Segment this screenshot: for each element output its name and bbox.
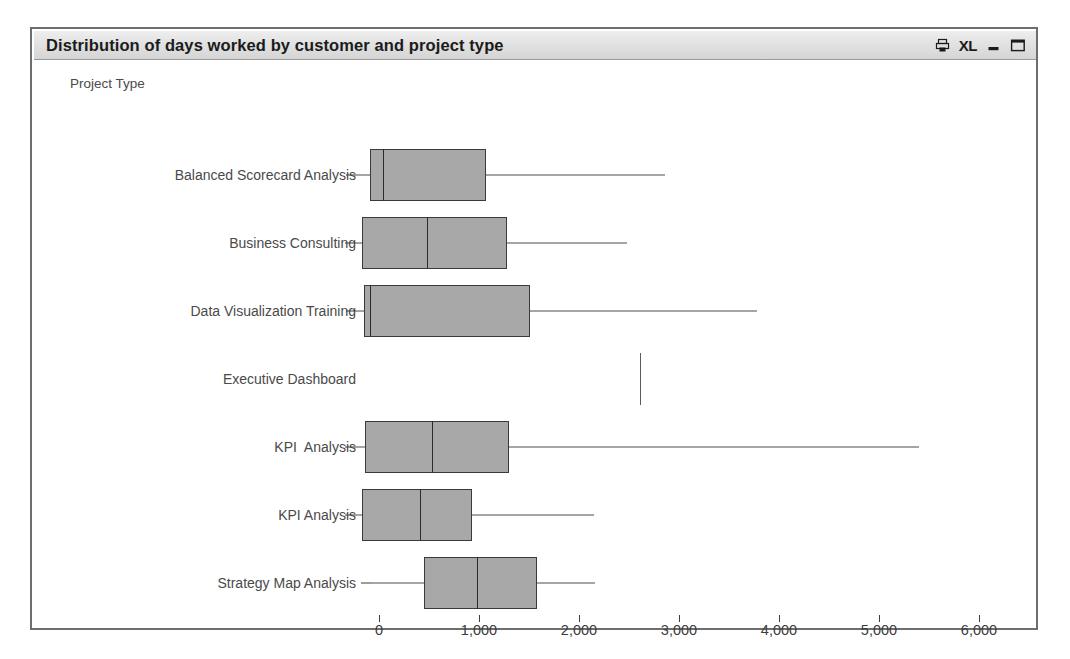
x-axis-tick bbox=[979, 615, 980, 622]
maximize-button[interactable] bbox=[1010, 38, 1026, 53]
excel-export-icon[interactable]: XL bbox=[959, 38, 977, 53]
x-axis-tick-label: 4,000 bbox=[761, 622, 797, 638]
x-axis-tick-label: 1,000 bbox=[461, 622, 497, 638]
x-axis-tick bbox=[779, 615, 780, 622]
x-axis: 01,0002,0003,0004,0005,0006,000 bbox=[34, 60, 1036, 628]
boxplot-canvas: Project Type Balanced Scorecard Analysis… bbox=[34, 60, 1036, 628]
page-title: Distribution of days worked by customer … bbox=[46, 36, 504, 55]
window-titlebar: Distribution of days worked by customer … bbox=[34, 31, 1036, 60]
x-axis-tick-label: 2,000 bbox=[561, 622, 597, 638]
x-axis-tick bbox=[479, 615, 480, 622]
x-axis-tick bbox=[679, 615, 680, 622]
x-axis-tick bbox=[579, 615, 580, 622]
chart-window: Distribution of days worked by customer … bbox=[30, 27, 1038, 630]
x-axis-tick bbox=[879, 615, 880, 622]
minimize-button[interactable] bbox=[986, 38, 1001, 53]
x-axis-tick bbox=[379, 615, 380, 622]
x-axis-tick-label: 5,000 bbox=[861, 622, 897, 638]
x-axis-tick-label: 0 bbox=[375, 622, 383, 638]
print-icon[interactable] bbox=[935, 38, 950, 53]
titlebar-controls: XL bbox=[935, 38, 1026, 53]
x-axis-tick-label: 6,000 bbox=[961, 622, 997, 638]
x-axis-tick-label: 3,000 bbox=[661, 622, 697, 638]
